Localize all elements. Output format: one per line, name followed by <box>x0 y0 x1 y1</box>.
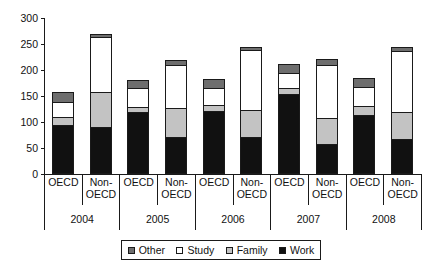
bar-stack <box>90 18 112 174</box>
bar-segment-work <box>203 111 225 174</box>
bar-segment-study <box>203 88 225 106</box>
x-axis-year-label: 2005 <box>119 205 194 230</box>
bar-segment-other <box>278 64 300 74</box>
y-axis-tick-label: 150 <box>6 91 38 101</box>
y-axis-tick-label: 100 <box>6 117 38 127</box>
bar-segment-study <box>165 65 187 109</box>
bar-segment-other <box>391 47 413 52</box>
bar-segment-study <box>240 50 262 110</box>
bar-segment-other <box>203 79 225 89</box>
other-swatch <box>128 247 135 254</box>
stacked-bar-chart: 300250200150100500 OECDNon-OECDOECDNon-O… <box>0 0 440 274</box>
x-axis-subcategory-label: OECD <box>346 174 384 205</box>
bar-segment-study <box>278 73 300 89</box>
bar-segment-work <box>90 127 112 174</box>
work-swatch <box>279 247 286 254</box>
bar-segment-other <box>316 59 338 66</box>
bar-segment-work <box>52 125 74 174</box>
plot-area <box>44 18 421 174</box>
subcategory-row: OECDNon-OECDOECDNon-OECDOECDNon-OECDOECD… <box>44 174 422 205</box>
x-axis-subcategory-label: Non-OECD <box>383 174 421 205</box>
category-table-right-border <box>421 174 422 230</box>
x-axis-subcategory-label: Non-OECD <box>82 174 120 205</box>
bar-segment-family <box>165 108 187 138</box>
bar-segment-other <box>52 92 74 103</box>
y-axis-tick-label: 50 <box>6 143 38 153</box>
bar-stack <box>240 18 262 174</box>
legend-item-label: Work <box>290 244 314 256</box>
bar-segment-other <box>127 80 149 89</box>
bar-segment-study <box>353 87 375 107</box>
bar-segment-other <box>90 34 112 38</box>
bar-stack <box>52 18 74 174</box>
legend-item-label: Other <box>139 244 165 256</box>
bar-stack <box>127 18 149 174</box>
bar-segment-other <box>240 47 262 51</box>
legend-item-label: Study <box>187 244 214 256</box>
bar-segment-study <box>391 51 413 113</box>
bar-segment-study <box>316 65 338 120</box>
bar-segment-work <box>278 94 300 174</box>
chart-legend: OtherStudyFamilyWork <box>121 240 321 260</box>
x-axis-year-label: 2007 <box>270 205 345 230</box>
family-swatch <box>226 247 233 254</box>
bar-segment-work <box>353 115 375 174</box>
bar-segment-family <box>90 92 112 128</box>
y-axis-tick-label: 250 <box>6 39 38 49</box>
bar-stack <box>353 18 375 174</box>
x-axis-subcategory-label: Non-OECD <box>308 174 346 205</box>
legend-item-label: Family <box>237 244 268 256</box>
bar-stack <box>165 18 187 174</box>
bar-segment-other <box>165 60 187 67</box>
y-axis-tick-label: 0 <box>6 169 38 179</box>
bar-segment-family <box>353 106 375 115</box>
legend-item: Family <box>226 244 268 256</box>
year-row-left-border <box>44 205 45 230</box>
x-axis-subcategory-label: Non-OECD <box>157 174 195 205</box>
bar-segment-work <box>240 137 262 174</box>
x-axis-year-label: 2008 <box>346 205 421 230</box>
bar-stack <box>316 18 338 174</box>
bar-segment-other <box>353 78 375 88</box>
bar-stack <box>203 18 225 174</box>
y-axis-tick-label: 200 <box>6 65 38 75</box>
x-axis-subcategory-label: OECD <box>270 174 308 205</box>
bar-stack <box>278 18 300 174</box>
bar-segment-work <box>316 144 338 174</box>
x-axis-year-label: 2006 <box>195 205 270 230</box>
bar-segment-study <box>90 37 112 94</box>
bar-segment-work <box>391 139 413 174</box>
bar-segment-family <box>316 118 338 145</box>
bar-segment-family <box>203 105 225 112</box>
bar-segment-study <box>127 88 149 108</box>
bar-segment-work <box>165 137 187 174</box>
bar-stack <box>391 18 413 174</box>
x-axis-year-label: 2004 <box>44 205 119 230</box>
year-row: 20042005200620072008 <box>44 205 422 230</box>
x-axis-category-table: OECDNon-OECDOECDNon-OECDOECDNon-OECDOECD… <box>44 174 422 230</box>
bar-segment-family <box>278 88 300 95</box>
legend-item: Work <box>279 244 314 256</box>
legend-item: Other <box>128 244 165 256</box>
x-axis-subcategory-label: Non-OECD <box>233 174 271 205</box>
x-axis-subcategory-label: OECD <box>119 174 157 205</box>
legend-item: Study <box>176 244 214 256</box>
bar-segment-family <box>240 110 262 138</box>
bar-segment-work <box>127 112 149 174</box>
x-axis-subcategory-label: OECD <box>44 174 82 205</box>
bar-segment-study <box>52 102 74 118</box>
x-axis-subcategory-label: OECD <box>195 174 233 205</box>
study-swatch <box>176 247 183 254</box>
y-axis-tick-label: 300 <box>6 13 38 23</box>
bar-segment-family <box>391 112 413 140</box>
bar-segment-family <box>52 117 74 126</box>
